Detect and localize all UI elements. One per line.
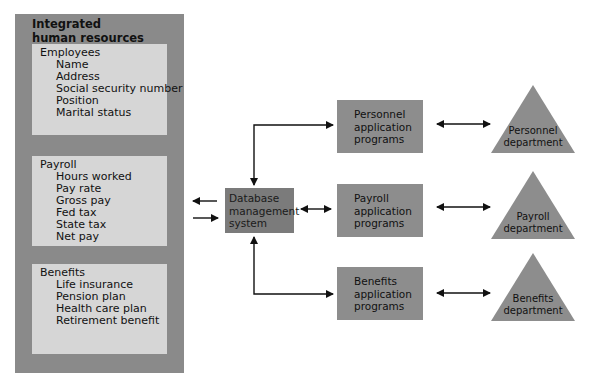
personnel-department-triangle: Personnel department	[491, 85, 575, 153]
payroll-program-box: Payroll application programs	[337, 184, 423, 237]
personnel-program-box: Personnel application programs	[337, 100, 423, 153]
program-label: Payroll application programs	[354, 192, 412, 230]
program-label: Personnel application programs	[354, 108, 412, 146]
dbms-label: Database management system	[229, 192, 299, 230]
benefits-department-triangle: Benefits department	[491, 253, 575, 321]
arrow-dbms-personnel	[254, 125, 333, 185]
department-label: Personnel department	[491, 125, 575, 149]
benefits-program-box: Benefits application programs	[337, 267, 423, 320]
arrow-dbms-benefits	[254, 237, 333, 294]
program-label: Benefits application programs	[354, 275, 412, 313]
dbms-box: Database management system	[225, 188, 294, 233]
department-label: Payroll department	[491, 211, 575, 235]
payroll-department-triangle: Payroll department	[491, 171, 575, 239]
department-label: Benefits department	[491, 293, 575, 317]
